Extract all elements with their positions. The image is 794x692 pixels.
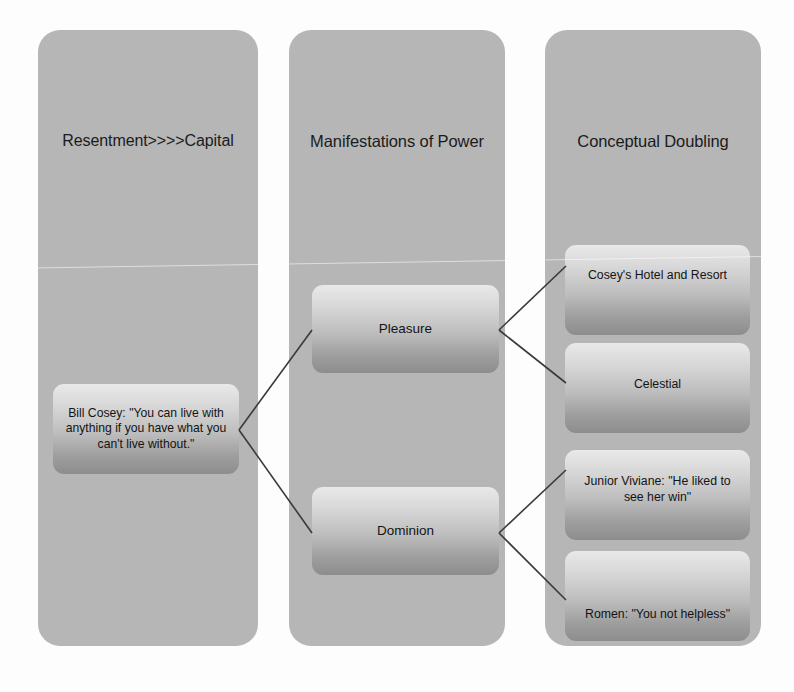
node-pleasure[interactable]: Pleasure [312, 285, 499, 373]
column-panel-resentment-capital: Resentment>>>>Capital [38, 30, 258, 646]
node-dominion[interactable]: Dominion [312, 487, 499, 575]
node-label-dominion: Dominion [312, 522, 499, 539]
node-romen-quote[interactable]: Romen: "You not helpless" [565, 551, 750, 641]
node-label-celestial: Celestial [565, 343, 750, 393]
diagram-canvas: Resentment>>>>Capital Bill Cosey: "You c… [0, 0, 794, 692]
node-label-romen-quote: Romen: "You not helpless" [565, 551, 750, 623]
column-title-conceptual-doubling: Conceptual Doubling [545, 132, 761, 151]
node-label-bill-cosey-quote: Bill Cosey: "You can live with anything … [53, 406, 239, 453]
node-label-junior-viviane-quote: Junior Viviane: "He liked to see her win… [565, 450, 750, 505]
column-title-resentment-capital: Resentment>>>>Capital [38, 132, 258, 150]
node-label-pleasure: Pleasure [312, 320, 499, 337]
node-coseys-hotel-and-resort[interactable]: Cosey's Hotel and Resort [565, 245, 750, 335]
node-junior-viviane-quote[interactable]: Junior Viviane: "He liked to see her win… [565, 450, 750, 540]
node-celestial[interactable]: Celestial [565, 343, 750, 433]
column-title-manifestations-of-power: Manifestations of Power [289, 132, 505, 151]
node-bill-cosey-quote[interactable]: Bill Cosey: "You can live with anything … [53, 384, 239, 474]
node-label-coseys-hotel-and-resort: Cosey's Hotel and Resort [565, 245, 750, 284]
